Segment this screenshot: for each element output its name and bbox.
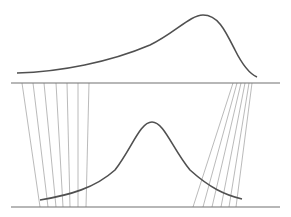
projection-lines-left bbox=[22, 83, 89, 207]
projection-line bbox=[212, 83, 241, 207]
projection-line bbox=[236, 83, 252, 207]
diagram-canvas bbox=[0, 0, 291, 217]
projection-line bbox=[56, 83, 63, 207]
bell-distribution-curve bbox=[40, 122, 242, 200]
distribution-mapping-diagram bbox=[0, 0, 291, 217]
projection-lines-right bbox=[193, 83, 252, 207]
projection-line bbox=[22, 83, 40, 207]
projection-line bbox=[193, 83, 233, 207]
skewed-distribution-curve bbox=[17, 15, 257, 77]
projection-line bbox=[67, 83, 70, 207]
projection-line bbox=[221, 83, 245, 207]
